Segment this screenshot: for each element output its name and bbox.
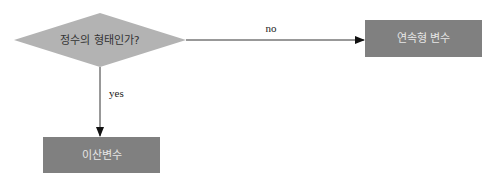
decision-node: 정수의 형태인가? bbox=[14, 13, 186, 67]
edge-no-label: no bbox=[266, 22, 278, 34]
edge-yes-label: yes bbox=[109, 87, 124, 99]
continuous-node: 연속형 변수 bbox=[365, 20, 482, 57]
flowchart: no yes 정수의 형태인가? 연속형 변수 이산변수 bbox=[0, 0, 497, 187]
decision-label: 정수의 형태인가? bbox=[60, 34, 139, 47]
discrete-label: 이산변수 bbox=[82, 149, 122, 162]
discrete-node: 이산변수 bbox=[43, 137, 160, 173]
edge-no: no bbox=[186, 22, 364, 40]
edge-yes: yes bbox=[100, 67, 124, 136]
continuous-label: 연속형 변수 bbox=[397, 32, 451, 45]
